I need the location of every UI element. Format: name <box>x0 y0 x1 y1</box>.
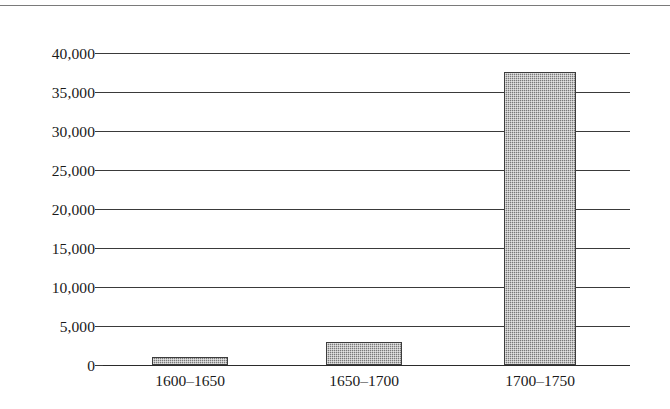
bar-1650-1700[interactable] <box>326 342 402 365</box>
x-tick-label-1700-1750: 1700–1750 <box>464 372 616 389</box>
bar-chart-figure: 40,000 35,000 30,000 25,000 20,000 15,00… <box>0 0 670 409</box>
y-tick-label: 40,000 <box>5 46 95 62</box>
y-tick-label: 0 <box>5 358 95 374</box>
y-tick-label: 5,000 <box>5 319 95 335</box>
y-tick-label: 10,000 <box>5 280 95 296</box>
bar-1700-1750[interactable] <box>504 72 576 365</box>
y-tick-label: 30,000 <box>5 124 95 140</box>
y-tick-mark <box>95 209 103 210</box>
y-tick-mark <box>95 92 103 93</box>
axis-baseline-0 <box>103 365 630 366</box>
y-axis: 40,000 35,000 30,000 25,000 20,000 15,00… <box>0 0 95 409</box>
y-tick-mark <box>95 131 103 132</box>
plot-area <box>103 53 630 365</box>
y-tick-mark <box>95 365 103 366</box>
y-tick-mark <box>95 53 103 54</box>
gridline-40000 <box>103 53 630 54</box>
y-tick-label: 25,000 <box>5 163 95 179</box>
y-tick-mark <box>95 287 103 288</box>
y-tick-label: 15,000 <box>5 241 95 257</box>
y-tick-mark <box>95 248 103 249</box>
y-tick-mark <box>95 326 103 327</box>
x-tick-label-1650-1700: 1650–1700 <box>288 372 440 389</box>
y-tick-mark <box>95 170 103 171</box>
x-tick-label-1600-1650: 1600–1650 <box>114 372 266 389</box>
bar-1600-1650[interactable] <box>152 357 228 365</box>
y-tick-label: 35,000 <box>5 85 95 101</box>
y-tick-label: 20,000 <box>5 202 95 218</box>
